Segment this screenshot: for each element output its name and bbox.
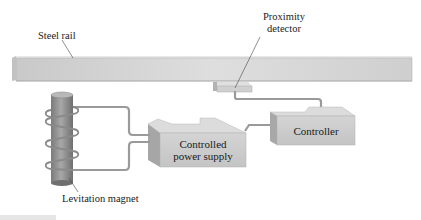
rail-front-face bbox=[16, 58, 412, 81]
proximity-detector bbox=[213, 82, 252, 92]
magnet-top bbox=[51, 92, 73, 98]
wire-controller-power bbox=[245, 125, 270, 131]
label-power-supply-line1: Controlled bbox=[160, 138, 246, 150]
steel-rail-leader bbox=[62, 40, 73, 58]
label-power-supply-line2: power supply bbox=[160, 150, 246, 162]
controller-top bbox=[270, 107, 355, 116]
label-levitation-magnet: Levitation magnet bbox=[62, 193, 139, 205]
controller-side bbox=[270, 112, 277, 145]
wire-power-coil-top bbox=[72, 107, 150, 135]
levitation-magnet-leader bbox=[69, 178, 78, 192]
power-supply-top bbox=[148, 118, 246, 133]
label-proximity-line1: Proximity bbox=[254, 11, 314, 23]
footer-bar bbox=[0, 215, 56, 220]
magnet-coil bbox=[46, 107, 79, 170]
label-controller: Controller bbox=[277, 125, 355, 137]
label-power-supply: Controlled power supply bbox=[160, 138, 246, 162]
label-proximity-line2: detector bbox=[254, 23, 314, 35]
label-steel-rail: Steel rail bbox=[38, 30, 76, 42]
label-proximity-detector: Proximity detector bbox=[254, 11, 314, 35]
diagram: Steel rail Proximity detector Controller… bbox=[0, 0, 421, 220]
steel-rail bbox=[12, 56, 412, 81]
wire-power-coil-bottom bbox=[72, 142, 150, 170]
